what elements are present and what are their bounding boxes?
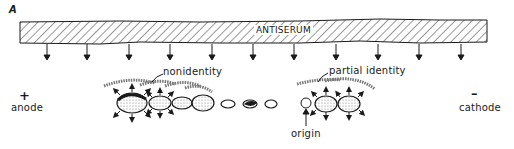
anode-sign: + (19, 88, 30, 103)
antigen-spots-anodal (117, 93, 277, 113)
precipitin-arcs-partial-identity (297, 79, 375, 89)
cathode-label: cathode (459, 102, 501, 113)
panel-label: A (9, 4, 17, 15)
antiserum-label: ANTISERUM (254, 25, 313, 35)
nonidentity-label: nonidentity (163, 66, 222, 77)
precipitin-arcs-nonidentity (104, 80, 212, 92)
origin-label: origin (291, 128, 321, 139)
immunoelectrophoresis-diagram (0, 0, 514, 149)
anode-label: anode (11, 102, 43, 113)
diffusion-arrows (44, 44, 464, 60)
partial-identity-label: partial identity (329, 65, 406, 76)
origin-well (301, 98, 311, 108)
antigen-spots-cathodal (315, 96, 360, 112)
cathode-sign: – (471, 86, 478, 101)
